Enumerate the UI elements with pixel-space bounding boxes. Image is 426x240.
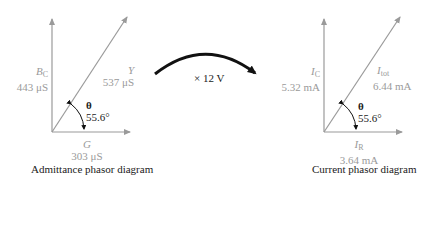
g-value: 303 μS xyxy=(62,150,112,162)
bc-subscript: C xyxy=(43,70,48,79)
theta-arc-icon xyxy=(71,104,84,129)
y-label: Y 537 μS xyxy=(92,64,134,88)
g-label: G 303 μS xyxy=(62,138,112,162)
theta-arc-icon xyxy=(343,104,356,129)
theta-value: 55.6° xyxy=(358,112,382,124)
current-caption: Current phasor diagram xyxy=(312,163,416,175)
itot-label: Itot 6.44 mA xyxy=(373,64,412,92)
itot-subscript: tot xyxy=(381,69,389,78)
ir-subscript: R xyxy=(358,143,363,152)
admittance-caption: Admittance phasor diagram xyxy=(31,163,153,175)
transform-label: × 12 V xyxy=(194,72,224,84)
bc-symbol: B xyxy=(36,65,43,77)
ir-label: IR 3.64 mA xyxy=(334,138,384,166)
theta-value: 55.6° xyxy=(86,111,110,123)
bc-value: 443 μS xyxy=(8,81,48,93)
y-value: 537 μS xyxy=(92,76,134,88)
theta-symbol: θ xyxy=(86,99,110,111)
y-symbol: Y xyxy=(128,64,134,76)
itot-value: 6.44 mA xyxy=(373,80,412,92)
theta-label: θ 55.6° xyxy=(86,99,110,123)
ic-label: IC 5.32 mA xyxy=(274,65,320,93)
theta-symbol: θ xyxy=(358,100,382,112)
ic-subscript: C xyxy=(315,70,320,79)
g-symbol: G xyxy=(83,138,91,150)
theta-label: θ 55.6° xyxy=(358,100,382,124)
bc-label: BC 443 μS xyxy=(8,65,48,93)
ic-value: 5.32 mA xyxy=(274,81,320,93)
